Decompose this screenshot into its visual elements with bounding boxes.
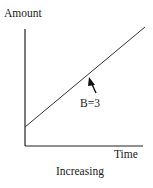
- y-axis-label: Amount: [4, 8, 42, 20]
- increasing-line: [25, 27, 145, 127]
- x-axis-label: Time: [114, 149, 138, 161]
- caption: Increasing: [56, 166, 104, 178]
- arrow-icon: [88, 77, 96, 93]
- annotation-label: B=3: [80, 98, 100, 110]
